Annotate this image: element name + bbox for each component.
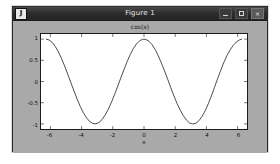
x-tick-label: -2 [110,131,115,139]
plot-axes[interactable] [40,33,248,130]
cos-curve-path [46,39,242,124]
y-tick-label: -0.5 [27,100,38,106]
x-tick-label: -6 [47,131,52,139]
window-titlebar[interactable]: J Figure 1 × [13,7,267,21]
figure-canvas: cos(x) -1-0.500.51 -6-4-20246 x [13,21,267,153]
y-tick-label: 1 [35,35,39,41]
close-button[interactable]: × [251,8,264,19]
desktop-background: J Figure 1 × cos(x) [0,0,280,164]
figure-window: J Figure 1 × cos(x) [12,6,268,152]
maximize-button[interactable] [235,8,248,19]
x-tick-label: 0 [142,131,146,139]
close-icon: × [255,11,260,17]
x-tick-label: 2 [174,131,178,139]
window-controls: × [219,8,267,19]
plot-line-svg [41,34,247,129]
y-tick-label: -1 [33,122,38,128]
minimize-button[interactable] [219,8,232,19]
y-tick-label: 0.5 [29,57,38,63]
axis-tick-marks [41,34,247,129]
application-icon: J [15,8,27,20]
x-axis-label: x [40,139,248,146]
maximize-icon [239,11,244,16]
plot-title: cos(x) [13,23,267,31]
y-tick-label: 0 [35,79,39,85]
x-tick-label: 6 [237,131,241,139]
x-tick-label: 4 [205,131,209,139]
minimize-icon [223,15,228,16]
x-tick-label: -4 [78,131,83,139]
y-axis-tick-labels: -1-0.500.51 [21,33,38,130]
